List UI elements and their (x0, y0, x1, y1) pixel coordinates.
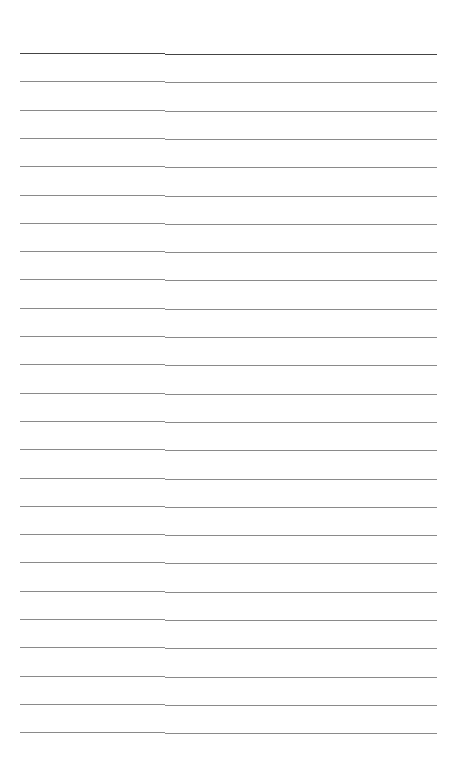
ruled-line (20, 81, 437, 82)
ruled-line (20, 223, 437, 224)
line-segment-right (165, 224, 437, 225)
line-segment-right (165, 648, 437, 649)
ruled-line (20, 732, 437, 733)
line-segment-left (20, 195, 165, 196)
line-segment-right (165, 252, 437, 253)
ruled-line (20, 619, 437, 620)
line-segment-left (20, 336, 165, 337)
line-segment-right (165, 82, 437, 83)
ruled-line (20, 704, 437, 705)
ruled-line (20, 534, 437, 535)
ruled-line (20, 478, 437, 479)
ruled-line (20, 336, 437, 337)
line-segment-left (20, 279, 165, 280)
ruled-line (20, 676, 437, 677)
ruled-line (20, 449, 437, 450)
line-segment-left (20, 704, 165, 705)
line-segment-left (20, 138, 165, 139)
line-segment-left (20, 647, 165, 648)
line-segment-right (165, 196, 437, 197)
line-segment-left (20, 449, 165, 450)
line-segment-left (20, 393, 165, 394)
ruled-line (20, 138, 437, 139)
ruled-line (20, 110, 437, 111)
line-segment-left (20, 478, 165, 479)
line-segment-right (165, 309, 437, 310)
line-segment-right (165, 479, 437, 480)
line-segment-left (20, 732, 165, 733)
line-segment-right (165, 450, 437, 451)
line-segment-left (20, 676, 165, 677)
line-segment-left (20, 53, 165, 54)
ruled-line (20, 364, 437, 365)
ruled-line (20, 166, 437, 167)
line-segment-left (20, 364, 165, 365)
line-segment-left (20, 223, 165, 224)
ruled-line (20, 53, 437, 54)
line-segment-right (165, 733, 437, 734)
line-segment-right (165, 167, 437, 168)
line-segment-left (20, 81, 165, 82)
line-segment-right (165, 54, 437, 55)
line-segment-right (165, 677, 437, 678)
line-segment-right (165, 422, 437, 423)
ruled-line (20, 591, 437, 592)
line-segment-right (165, 507, 437, 508)
ruled-line (20, 251, 437, 252)
line-segment-right (165, 280, 437, 281)
line-segment-left (20, 562, 165, 563)
line-segment-left (20, 251, 165, 252)
ruled-line (20, 393, 437, 394)
ruled-line (20, 195, 437, 196)
ruled-sheet (0, 0, 457, 767)
line-segment-left (20, 506, 165, 507)
line-segment-right (165, 620, 437, 621)
line-segment-left (20, 421, 165, 422)
line-segment-right (165, 337, 437, 338)
line-segment-right (165, 563, 437, 564)
ruled-line (20, 506, 437, 507)
line-segment-left (20, 534, 165, 535)
line-segment-right (165, 365, 437, 366)
ruled-line (20, 647, 437, 648)
line-segment-left (20, 166, 165, 167)
ruled-line (20, 421, 437, 422)
line-segment-right (165, 111, 437, 112)
line-segment-right (165, 592, 437, 593)
ruled-line (20, 308, 437, 309)
line-segment-left (20, 619, 165, 620)
line-segment-right (165, 394, 437, 395)
line-segment-left (20, 591, 165, 592)
ruled-line (20, 562, 437, 563)
line-segment-right (165, 139, 437, 140)
line-segment-right (165, 705, 437, 706)
ruled-line (20, 279, 437, 280)
line-segment-right (165, 535, 437, 536)
line-segment-left (20, 110, 165, 111)
line-segment-left (20, 308, 165, 309)
